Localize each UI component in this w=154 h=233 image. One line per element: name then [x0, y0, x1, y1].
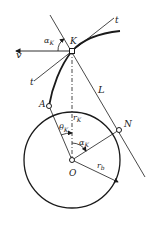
involute-diagram: v αK K t t L A rK N θK αK O rb [0, 0, 154, 233]
label-N: N [123, 119, 133, 129]
label-alphaK-bottom: αK [79, 138, 89, 148]
label-alphaK-top: αK [44, 36, 54, 46]
label-rb: rb [97, 161, 105, 171]
label-K: K [69, 36, 78, 46]
label-L: L [97, 84, 105, 95]
normal-line [50, 15, 145, 177]
radius-rb-arrow [72, 160, 118, 182]
point-N [117, 128, 122, 133]
label-v: v [16, 49, 22, 60]
point-O [70, 158, 75, 163]
label-t-top: t [115, 15, 119, 25]
involute-curve [49, 31, 120, 106]
angle-alphaK-top-arc [58, 39, 64, 51]
label-rK: rK [73, 113, 82, 123]
point-A [47, 104, 52, 109]
label-t-left: t [30, 77, 34, 87]
point-K [70, 49, 75, 54]
label-O: O [69, 168, 77, 178]
label-A: A [38, 99, 46, 109]
label-thetaK: θK [59, 123, 69, 133]
angle-thetaK-arc [61, 133, 72, 135]
